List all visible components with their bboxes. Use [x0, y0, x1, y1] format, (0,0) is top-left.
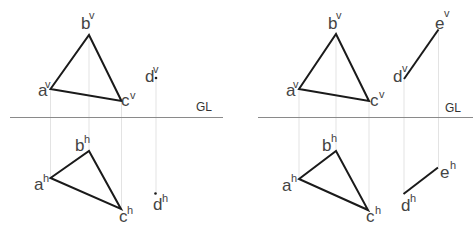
svg-text:c: c	[366, 207, 375, 226]
label-e-v: e v	[435, 7, 450, 33]
svg-text:c: c	[121, 91, 130, 110]
svg-text:e: e	[440, 163, 449, 182]
label-d-h: d h	[153, 192, 168, 214]
label-c-v: c v	[370, 88, 385, 110]
left-gl-label: GL	[196, 100, 212, 114]
svg-text:h: h	[162, 192, 168, 204]
label-e-h: e h	[440, 159, 456, 182]
svg-text:h: h	[450, 159, 456, 171]
svg-text:v: v	[336, 9, 342, 21]
svg-text:h: h	[43, 172, 49, 184]
svg-text:v: v	[130, 89, 136, 101]
svg-text:h: h	[375, 204, 381, 216]
right-panel: GL a v b v c v d v e v a h	[258, 7, 473, 226]
label-b-v: b v	[81, 9, 95, 33]
label-a-h: a h	[282, 172, 297, 195]
label-c-v: c v	[121, 89, 136, 110]
svg-text:h: h	[331, 132, 337, 144]
line-de-top-view	[404, 168, 439, 195]
left-projector-lines	[51, 35, 157, 209]
line-de-front-view	[404, 30, 439, 80]
right-triangle-top-view	[299, 151, 368, 210]
left-point-d-front	[155, 77, 158, 80]
left-triangle-front-view	[51, 35, 122, 101]
svg-text:h: h	[127, 204, 133, 216]
label-a-v: a v	[286, 78, 299, 100]
svg-text:v: v	[444, 7, 450, 19]
label-a-v: a v	[38, 78, 51, 100]
label-d-h: d h	[401, 192, 416, 215]
svg-text:h: h	[84, 133, 90, 145]
svg-text:v: v	[89, 9, 95, 21]
svg-text:v: v	[153, 63, 159, 75]
projection-diagram: GL a v b v c v d v a h b	[0, 0, 473, 231]
label-a-h: a h	[34, 172, 49, 194]
svg-text:h: h	[291, 172, 297, 184]
label-c-h: c h	[119, 204, 133, 226]
label-d-v: d v	[393, 62, 408, 86]
label-c-h: c h	[366, 204, 381, 226]
svg-text:v: v	[402, 62, 408, 74]
label-d-v: d v	[145, 63, 159, 86]
svg-text:v: v	[379, 88, 385, 100]
svg-text:h: h	[410, 192, 416, 204]
left-triangle-top-view	[51, 151, 122, 209]
svg-text:v: v	[45, 78, 51, 90]
label-b-v: b v	[328, 9, 342, 33]
svg-text:c: c	[370, 91, 379, 110]
right-triangle-front-view	[299, 34, 369, 101]
right-gl-label: GL	[445, 101, 461, 115]
left-panel: GL a v b v c v d v a h b	[10, 9, 223, 226]
svg-text:v: v	[293, 78, 299, 90]
